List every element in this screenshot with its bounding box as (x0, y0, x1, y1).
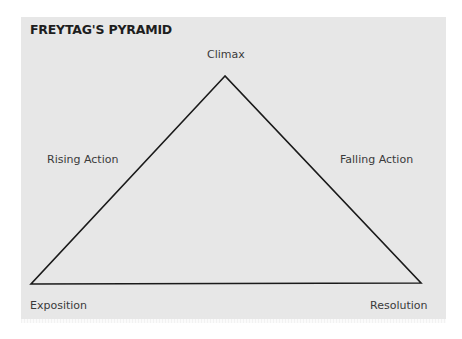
label-rising-action: Rising Action (47, 153, 118, 166)
label-climax: Climax (207, 48, 245, 61)
label-exposition: Exposition (30, 299, 87, 312)
label-resolution: Resolution (370, 299, 427, 312)
label-falling-action: Falling Action (340, 153, 413, 166)
